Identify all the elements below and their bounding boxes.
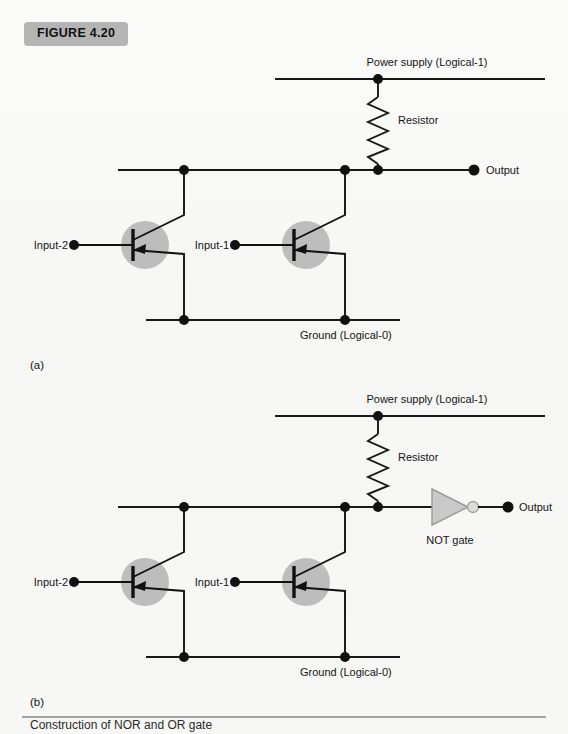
output-terminal-b — [503, 502, 514, 513]
junction-dot-gnd-left-a — [179, 315, 189, 325]
circuit-b: Power supply (Logical-1) Resistor NOT ga… — [30, 393, 552, 708]
power-supply-label-a: Power supply (Logical-1) — [366, 56, 487, 68]
part-label-b: (b) — [30, 696, 44, 708]
power-supply-label-b: Power supply (Logical-1) — [366, 393, 487, 405]
part-label-a: (a) — [30, 359, 44, 371]
not-gate-label-b: NOT gate — [426, 534, 474, 546]
transistor-input-2-b — [69, 507, 184, 657]
input-1-terminal-b — [230, 577, 240, 587]
resistor-a — [368, 79, 388, 170]
input-1-terminal-a — [230, 240, 240, 250]
input-1-label-b: Input-1 — [195, 576, 229, 588]
input-1-label-a: Input-1 — [195, 239, 229, 251]
junction-dot-out-res-a — [373, 165, 383, 175]
output-terminal-a — [469, 165, 480, 176]
input-2-terminal-a — [69, 240, 79, 250]
output-label-a: Output — [486, 164, 519, 176]
caption-region: Construction of NOR and OR gate — [0, 718, 568, 734]
junction-dot-out-res-b — [373, 502, 383, 512]
figure-caption: Construction of NOR and OR gate — [30, 718, 212, 732]
input-2-label-b: Input-2 — [34, 576, 68, 588]
not-gate-triangle — [432, 489, 468, 525]
not-gate-bubble — [468, 502, 479, 513]
ground-label-a: Ground (Logical-0) — [300, 329, 392, 341]
circuit-a: Power supply (Logical-1) Resistor Output — [30, 56, 545, 371]
junction-dot-gnd-left-b — [179, 652, 189, 662]
resistor-label-b: Resistor — [398, 451, 439, 463]
ground-label-b: Ground (Logical-0) — [300, 666, 392, 678]
junction-dot-gnd-right-a — [340, 315, 350, 325]
transistor-input-1-b — [230, 507, 345, 657]
input-2-label-a: Input-2 — [34, 239, 68, 251]
resistor-b — [368, 416, 388, 507]
transistor-input-2-a — [69, 170, 184, 320]
junction-dot-gnd-right-b — [340, 652, 350, 662]
output-label-b: Output — [519, 501, 552, 513]
resistor-label-a: Resistor — [398, 114, 439, 126]
input-2-terminal-b — [69, 577, 79, 587]
not-gate-b — [432, 489, 508, 525]
figure-canvas: Power supply (Logical-1) Resistor Output — [0, 0, 568, 734]
transistor-input-1-a — [230, 170, 345, 320]
